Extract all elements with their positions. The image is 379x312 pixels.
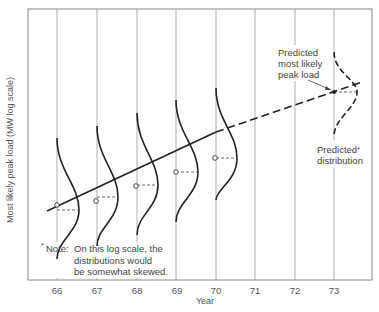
x-tick-70: 70	[211, 285, 222, 296]
distribution-66	[57, 138, 79, 259]
x-tick-69: 69	[172, 285, 183, 296]
distribution-69	[176, 100, 198, 222]
observed-points	[55, 156, 218, 208]
x-tick-71: 71	[250, 285, 261, 296]
x-tick-66: 66	[52, 285, 63, 296]
trend-line-solid	[47, 132, 216, 211]
x-tick-73: 73	[329, 285, 340, 296]
footnote-star: *	[41, 240, 44, 252]
distribution-curves	[57, 88, 237, 259]
x-tick-67: 67	[92, 285, 103, 296]
predicted-distribution-curve	[334, 52, 357, 136]
predicted-peak-annotation: Predicted most likely peak load	[278, 47, 322, 80]
x-tick-68: 68	[132, 285, 143, 296]
predicted-distribution-annotation: Predicted* distribution	[317, 144, 363, 166]
distribution-68	[137, 113, 158, 235]
distribution-70	[216, 88, 237, 200]
x-axis-label: Year	[196, 296, 214, 306]
trend-line-dashed	[216, 82, 362, 132]
predicted-point	[332, 90, 336, 94]
footnote: * Note:On this log scale, the distributi…	[46, 243, 168, 278]
x-tick-72: 72	[290, 285, 301, 296]
note-head: Note:	[46, 243, 74, 255]
y-axis-label: Most likely peak load (MW log scale)	[5, 77, 15, 223]
